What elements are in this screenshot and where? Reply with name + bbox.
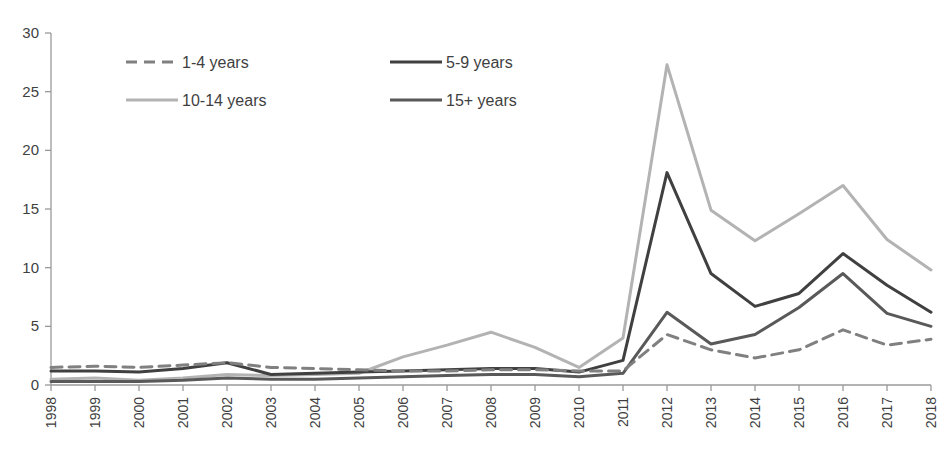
x-tick-label: 2015 <box>791 397 807 428</box>
x-tick-label: 1999 <box>87 397 103 428</box>
x-tick-label: 1998 <box>43 397 59 428</box>
x-tick-label: 2014 <box>747 397 763 428</box>
y-tick-label: 0 <box>31 376 39 393</box>
x-tick-label: 2006 <box>395 397 411 428</box>
y-tick-group: 302520151050 <box>22 24 51 393</box>
x-tick-label: 2011 <box>615 397 631 427</box>
x-tick-label: 2005 <box>351 397 367 428</box>
y-tick-label: 10 <box>22 259 39 276</box>
x-tick-label: 2018 <box>923 397 939 428</box>
legend-label: 10-14 years <box>182 92 267 109</box>
y-tick-label: 5 <box>31 317 39 334</box>
series-group <box>51 65 931 382</box>
x-tick-label: 2008 <box>483 397 499 428</box>
legend-label: 15+ years <box>446 92 517 109</box>
x-tick-label: 2001 <box>175 397 191 428</box>
line-chart: 302520151050 199819992000200120022003200… <box>0 0 952 454</box>
x-tick-label: 2000 <box>131 397 147 428</box>
chart-canvas: 302520151050 199819992000200120022003200… <box>0 0 952 454</box>
x-tick-label: 2017 <box>879 397 895 428</box>
x-tick-label: 2012 <box>659 397 675 428</box>
x-tick-label: 2003 <box>263 397 279 428</box>
series-line-10-14-years <box>51 65 931 381</box>
x-tick-label: 2010 <box>571 397 587 428</box>
chart-legend: 1-4 years5-9 years10-14 years15+ years <box>126 54 517 109</box>
x-tick-label: 2013 <box>703 397 719 428</box>
x-tick-label: 2002 <box>219 397 235 428</box>
x-tick-label: 2009 <box>527 397 543 428</box>
y-axis: 302520151050 <box>22 24 51 393</box>
legend-label: 5-9 years <box>446 54 513 71</box>
y-tick-label: 15 <box>22 200 39 217</box>
x-axis: 1998199920002001200220032004200520062007… <box>43 385 939 428</box>
x-tick-label: 2004 <box>307 397 323 428</box>
x-tick-group: 1998199920002001200220032004200520062007… <box>43 385 939 428</box>
series-line-1-4-years <box>51 330 931 371</box>
series-line-5-9-years <box>51 173 931 375</box>
legend-label: 1-4 years <box>182 54 249 71</box>
y-tick-label: 25 <box>22 83 39 100</box>
x-tick-label: 2007 <box>439 397 455 428</box>
y-tick-label: 30 <box>22 24 39 41</box>
x-tick-label: 2016 <box>835 397 851 428</box>
y-tick-label: 20 <box>22 141 39 158</box>
